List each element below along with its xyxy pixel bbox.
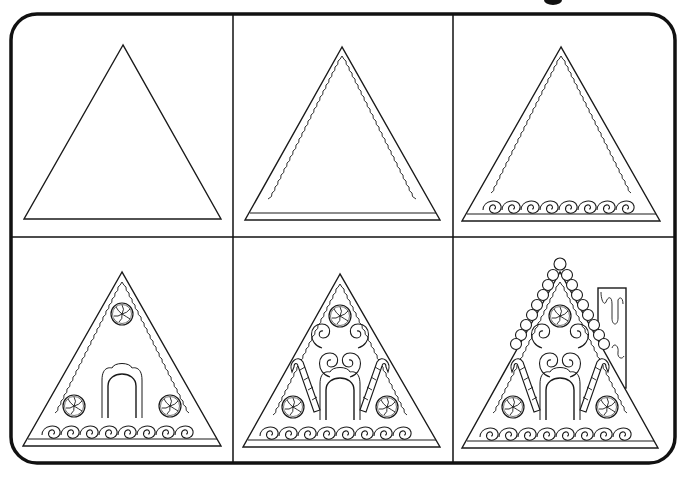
title-fragment (544, 0, 562, 5)
step-2-panel (245, 47, 440, 220)
wavy-icing-border (268, 56, 416, 199)
drawing-canvas (0, 0, 682, 480)
triangle-outline (24, 45, 221, 219)
step-1-panel (24, 45, 221, 219)
door (102, 364, 142, 419)
step-6-panel (462, 258, 658, 448)
peppermint-top (111, 303, 133, 325)
step-5-panel (243, 274, 440, 447)
swirl-row (483, 201, 634, 213)
tutorial-sheet (0, 0, 682, 480)
step-3-panel (462, 47, 660, 221)
peppermint-right (159, 395, 181, 417)
peppermint-left (63, 395, 85, 417)
step-4-panel (23, 272, 221, 446)
